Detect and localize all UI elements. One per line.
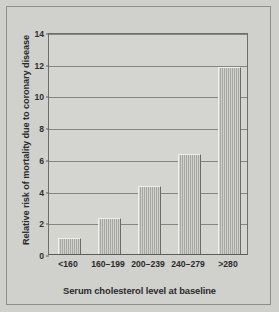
y-axis-tick-label: 14 xyxy=(34,29,44,39)
y-axis-tick-label: 10 xyxy=(34,92,44,102)
y-axis-tick-label: 8 xyxy=(39,124,44,134)
x-axis-tick-label: 200–239 xyxy=(131,259,164,269)
y-axis-tick-label: 2 xyxy=(39,219,44,229)
x-axis-tick-label: >280 xyxy=(218,259,237,269)
y-axis-tick-mark xyxy=(46,160,49,161)
y-axis-tick-label: 4 xyxy=(39,188,44,198)
x-axis-tick-label: 240–279 xyxy=(171,259,204,269)
bar xyxy=(178,154,201,254)
y-axis-tick-label: 0 xyxy=(39,251,44,261)
y-axis-tick-mark xyxy=(46,34,49,35)
y-axis-title: Relative risk of mortality due to corona… xyxy=(21,45,31,245)
y-axis-tick-mark xyxy=(46,192,49,193)
y-axis-tick-mark xyxy=(46,256,49,257)
y-axis-tick-mark xyxy=(46,129,49,130)
bar xyxy=(138,186,161,254)
bar xyxy=(58,238,81,254)
y-axis-tick-mark xyxy=(46,97,49,98)
chart-figure: Relative risk of mortality due to corona… xyxy=(0,0,279,312)
y-axis-tick-label: 6 xyxy=(39,156,44,166)
plot-area: 02468101214 xyxy=(48,33,248,255)
bar xyxy=(98,218,121,254)
x-axis-tick-label: 160–199 xyxy=(91,259,124,269)
x-axis-tick-label: <160 xyxy=(58,259,77,269)
gridline xyxy=(49,34,247,35)
x-axis-title: Serum cholesterol level at baseline xyxy=(0,285,279,296)
y-axis-tick-mark xyxy=(46,65,49,66)
bar xyxy=(218,67,241,254)
y-axis-tick-mark xyxy=(46,224,49,225)
y-axis-tick-label: 12 xyxy=(34,61,44,71)
